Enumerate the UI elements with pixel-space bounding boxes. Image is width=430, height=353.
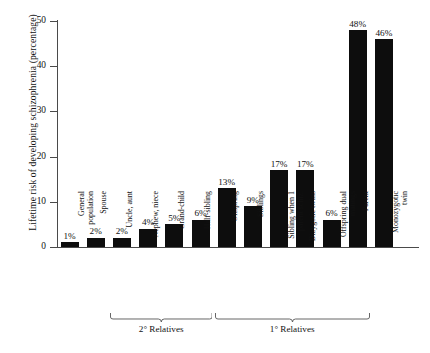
group-bracket [215,313,370,324]
x-axis-label: Monozygotictwin [392,191,409,251]
y-axis-title: Lifetime risk of developing schizophreni… [27,0,38,251]
y-tick-label: 10 [6,196,46,206]
group-bracket-label: 2° Relatives [116,324,206,334]
x-axis-label: Parent [362,191,371,251]
x-axis-label: Siblings [257,191,266,251]
x-axis-label: Dizygotic twins [309,191,318,251]
x-axis-label: Offspring [231,191,240,251]
x-axis-label: Uncle, aunt [126,191,135,251]
x-axis-label: Spouse [100,191,109,251]
schizophrenia-risk-bar-chart: Lifetime risk of developing schizophreni… [0,0,430,353]
group-bracket [110,313,213,324]
bar-value-label: 46% [368,28,400,38]
bar [270,170,288,247]
bar-value-label: 13% [211,177,243,187]
x-axis-label: Nephew, niece [152,191,161,251]
x-axis-label: Offspring dualmatings [340,191,357,251]
y-tick-label: 0 [6,241,46,251]
x-axis-label: Generalpopulation [78,191,95,251]
y-tick-label: 30 [6,105,46,115]
y-tick-label: 50 [6,15,46,25]
y-tick-label: 40 [6,60,46,70]
x-axis-label: Sibling when 1parent schiz. [288,191,305,251]
bar [61,242,79,247]
x-axis-label: Grand-child [178,191,187,251]
y-tick-label: 20 [6,151,46,161]
x-axis-label: Half-sibling [204,191,213,251]
bar [323,220,341,247]
bar-value-label: 17% [289,159,321,169]
group-bracket-label: 1° Relatives [247,324,337,334]
y-tick-mark [50,247,58,248]
